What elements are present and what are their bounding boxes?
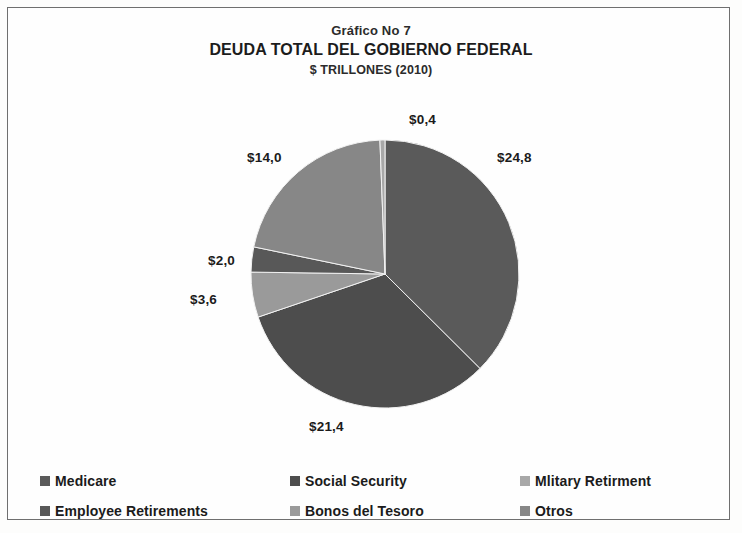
pie-label-employee-retirements: $2,0 (208, 253, 235, 268)
legend-item-label: Bonos del Tesoro (305, 503, 424, 519)
legend-swatch-icon (40, 506, 50, 516)
pie-label-bonos-del-tesoro: $3,6 (190, 292, 217, 307)
legend-item-label: Social Security (305, 473, 407, 489)
legend-row: Medicare Social Security Mlitary Retirme… (40, 466, 700, 496)
chart-legend: Medicare Social Security Mlitary Retirme… (40, 466, 700, 526)
legend-row: Employee Retirements Bonos del Tesoro Ot… (40, 496, 700, 526)
chart-main-title: DEUDA TOTAL DEL GOBIERNO FEDERAL (0, 39, 742, 61)
pie-label-otros: $14,0 (247, 150, 282, 165)
legend-item-label: Medicare (55, 473, 117, 489)
legend-item-label: Mlitary Retirment (535, 473, 651, 489)
legend-swatch-icon (520, 476, 530, 486)
legend-swatch-icon (290, 476, 300, 486)
legend-item-label: Employee Retirements (55, 503, 208, 519)
legend-item-otros[interactable]: Otros (520, 496, 700, 526)
chart-figure-number: Gráfico No 7 (0, 22, 742, 39)
legend-swatch-icon (290, 506, 300, 516)
legend-swatch-icon (40, 476, 50, 486)
legend-swatch-icon (520, 506, 530, 516)
chart-frame (7, 7, 730, 520)
legend-item-military-retirment[interactable]: Mlitary Retirment (520, 466, 700, 496)
legend-item-social-security[interactable]: Social Security (290, 466, 520, 496)
legend-item-bonos-del-tesoro[interactable]: Bonos del Tesoro (290, 496, 520, 526)
pie-label-social-security: $21,4 (309, 419, 344, 434)
pie-label-medicare: $24,8 (497, 150, 532, 165)
legend-item-label: Otros (535, 503, 573, 519)
legend-item-medicare[interactable]: Medicare (40, 466, 290, 496)
chart-title-block: Gráfico No 7 DEUDA TOTAL DEL GOBIERNO FE… (0, 22, 742, 80)
pie-label-military-retirment: $0,4 (409, 112, 436, 127)
legend-item-employee-retirements[interactable]: Employee Retirements (40, 496, 290, 526)
chart-units-subtitle: $ TRILLONES (2010) (0, 61, 742, 80)
